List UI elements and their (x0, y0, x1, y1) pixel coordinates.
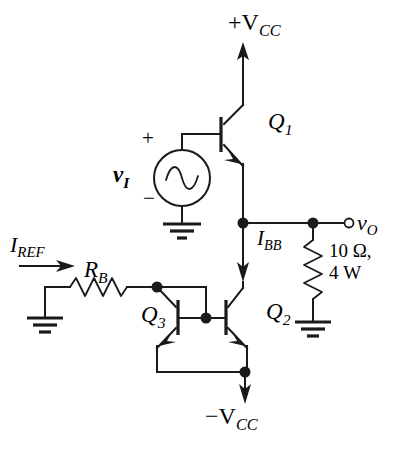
current-arrow-ibb (237, 228, 249, 282)
resistor-load (295, 223, 331, 336)
label-resistor-load: 10 Ω,4 W (329, 240, 372, 284)
label-output: vO (357, 212, 378, 234)
schematic-canvas (0, 0, 396, 460)
label-q1: Q1 (268, 110, 292, 133)
label-supply-negative: −VCC (205, 404, 258, 428)
label-current-ibb: IBB (257, 228, 281, 249)
ground-source (163, 224, 201, 238)
label-supply-positive: +VCC (228, 10, 281, 34)
output-rail (238, 218, 354, 229)
vcc-positive-rail (237, 42, 249, 105)
output-terminal (345, 219, 354, 228)
label-q3: Q3 (141, 303, 165, 326)
label-current-iref: IREF (10, 234, 45, 256)
ac-source-vi (154, 134, 210, 224)
negative-supply-rail (157, 346, 251, 404)
junction-dot-emitter (238, 218, 249, 229)
transistor-q1 (199, 105, 243, 166)
resistor-rb (27, 278, 157, 332)
current-arrow-iref (20, 260, 75, 272)
label-q2: Q2 (266, 300, 290, 323)
label-source-minus: − (143, 188, 155, 209)
label-source-plus: + (142, 128, 154, 149)
circuit-figure: +VCC −VCC Q1 Q2 Q3 vI + − vO IBB IREF RB… (0, 0, 396, 460)
transistor-q2 (206, 282, 247, 348)
label-resistor-rb: RB (84, 258, 108, 281)
label-input-source: vI (113, 163, 129, 186)
